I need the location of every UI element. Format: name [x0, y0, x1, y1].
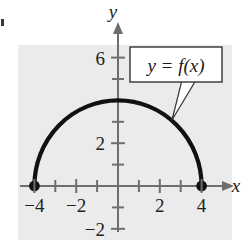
x-axis-tick-label: 4	[197, 195, 207, 216]
x-axis-tick-label: −4	[24, 195, 45, 216]
y-axis-tick-label: −2	[85, 219, 105, 240]
graph-svg: y = f(x) y x −4−224 62−2	[0, 0, 242, 246]
y-axis-label: y	[107, 1, 118, 22]
callout-label: y = f(x)	[145, 55, 204, 77]
figure-container: y = f(x) y x −4−224 62−2	[0, 0, 242, 246]
y-axis-tick-label: 2	[96, 133, 106, 154]
x-axis-label: x	[231, 175, 241, 196]
x-axis-tick-label: −2	[66, 195, 86, 216]
x-axis-tick-label: 2	[155, 195, 165, 216]
y-axis-tick-label: 6	[96, 48, 106, 69]
y-axis-arrowhead	[113, 22, 123, 34]
